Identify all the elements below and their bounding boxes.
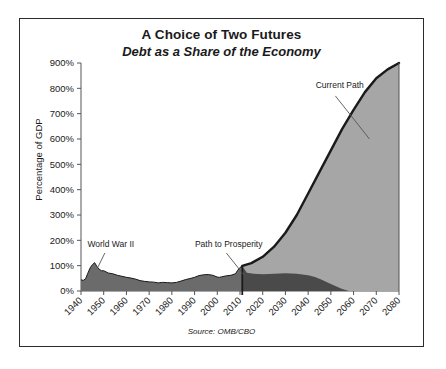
y-axis-tick-label: 600% bbox=[50, 133, 75, 144]
leader-line-path-to-prosperity bbox=[226, 253, 244, 276]
x-axis-tick-label: 2020 bbox=[243, 295, 266, 318]
x-axis-tick-label: 2030 bbox=[266, 295, 289, 318]
x-axis-tick-label: 2040 bbox=[289, 295, 312, 318]
x-axis-tick-label: 2000 bbox=[198, 295, 221, 318]
area-current-path bbox=[242, 63, 399, 291]
x-axis-tick-label: 1940 bbox=[62, 295, 85, 318]
y-axis-tick-label: 500% bbox=[50, 159, 75, 170]
y-axis-tick-label: 0% bbox=[60, 285, 74, 296]
x-axis-tick-label: 2010 bbox=[221, 295, 244, 318]
annotation-path-to-prosperity: Path to Prosperity bbox=[195, 239, 263, 249]
x-axis-tick-label: 2080 bbox=[380, 295, 403, 318]
annotation-current-path: Current Path bbox=[316, 80, 364, 90]
x-axis-tick-label: 1980 bbox=[153, 295, 176, 318]
y-axis-tick-label: 400% bbox=[50, 184, 75, 195]
y-axis-tick-label: 100% bbox=[50, 260, 75, 271]
y-axis-tick-label: 700% bbox=[50, 108, 75, 119]
x-axis-tick-label: 1950 bbox=[84, 295, 107, 318]
x-axis-tick-label: 1960 bbox=[107, 295, 130, 318]
chart-frame: A Choice of Two Futures Debt as a Share … bbox=[19, 18, 424, 347]
y-axis-tick-label: 800% bbox=[50, 83, 75, 94]
annotation-world-war-ii: World War II bbox=[87, 239, 134, 249]
y-axis-tick-label: 300% bbox=[50, 209, 75, 220]
y-axis-tick-label: 900% bbox=[50, 57, 75, 68]
leader-line-world-war-ii bbox=[98, 253, 105, 267]
chart-plot: 0%100%200%300%400%500%600%700%800%900%19… bbox=[20, 19, 425, 348]
x-axis-tick-label: 2050 bbox=[312, 295, 335, 318]
y-axis-tick-label: 200% bbox=[50, 235, 75, 246]
x-axis-tick-label: 1990 bbox=[175, 295, 198, 318]
x-axis-tick-label: 1970 bbox=[130, 295, 153, 318]
x-axis-tick-label: 2060 bbox=[334, 295, 357, 318]
x-axis-tick-label: 2070 bbox=[357, 295, 380, 318]
